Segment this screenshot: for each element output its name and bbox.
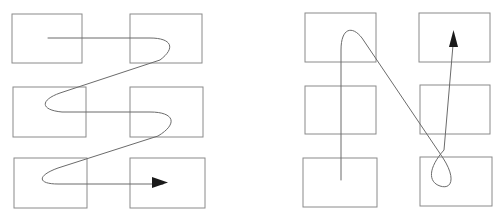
left-panel-horizontal-serpentine — [12, 14, 205, 208]
diagram-root — [0, 0, 503, 219]
right-panel-vertical-serpentine — [303, 13, 492, 207]
right-cell-row3-col1[interactable] — [303, 158, 377, 207]
scan-path-diagram-canvas — [0, 0, 503, 219]
right-cell-row3-col2[interactable] — [420, 157, 492, 206]
